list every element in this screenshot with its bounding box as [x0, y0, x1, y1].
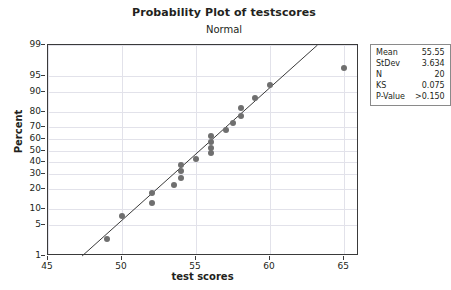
y-axis-tick-label: 60	[30, 133, 41, 143]
x-axis-tick-mark	[343, 256, 344, 260]
x-axis-tick-label: 50	[115, 261, 126, 271]
plot-area	[47, 44, 358, 255]
statistics-value: >0.150	[413, 91, 447, 102]
statistics-row: N20	[374, 69, 447, 80]
statistics-key: N	[374, 69, 413, 80]
data-point	[208, 133, 214, 139]
data-point	[119, 213, 125, 219]
statistics-legend: Mean55.55StDev3.634N20KS0.075P-Value>0.1…	[370, 44, 451, 106]
data-point	[208, 145, 214, 151]
statistics-row: StDev3.634	[374, 58, 447, 69]
y-axis-tick-mark	[41, 224, 45, 225]
statistics-value: 0.075	[413, 80, 447, 91]
data-point	[208, 150, 214, 156]
y-axis-tick-mark	[41, 91, 45, 92]
x-axis-tick-label: 55	[189, 261, 200, 271]
y-axis-tick-label: 5	[35, 219, 41, 229]
data-point	[238, 105, 244, 111]
chart-subtitle: Normal	[0, 24, 448, 35]
statistics-row: KS0.075	[374, 80, 447, 91]
statistics-value: 55.55	[413, 47, 447, 58]
x-axis-tick-mark	[47, 256, 48, 260]
data-point	[171, 182, 177, 188]
data-points	[48, 45, 357, 254]
data-point	[230, 120, 236, 126]
statistics-row: P-Value>0.150	[374, 91, 447, 102]
y-axis-tick-mark	[41, 150, 45, 151]
data-point	[149, 200, 155, 206]
y-axis-tick-mark	[41, 75, 45, 76]
x-axis-tick-mark	[269, 256, 270, 260]
y-axis-tick-label: 50	[30, 145, 41, 155]
data-point	[193, 156, 199, 162]
statistics-row: Mean55.55	[374, 47, 447, 58]
y-axis-tick-mark	[41, 44, 45, 45]
y-axis-tick-mark	[41, 188, 45, 189]
data-point	[208, 139, 214, 145]
y-axis-tick-label: 95	[30, 70, 41, 80]
x-axis-tick-mark	[121, 256, 122, 260]
data-point	[267, 82, 273, 88]
y-axis-tick-label: 10	[30, 203, 41, 213]
statistics-key: Mean	[374, 47, 413, 58]
data-point	[341, 65, 347, 71]
y-axis-tick-label: 80	[30, 106, 41, 116]
y-axis-tick-label: 20	[30, 183, 41, 193]
x-axis-title: test scores	[47, 271, 358, 282]
y-axis-tick-mark	[41, 138, 45, 139]
data-point	[178, 168, 184, 174]
x-axis-tick-label: 60	[263, 261, 274, 271]
x-axis-tick-label: 45	[41, 261, 52, 271]
y-axis-tick-label: 30	[30, 168, 41, 178]
data-point	[223, 127, 229, 133]
x-axis-tick-mark	[195, 256, 196, 260]
y-axis-title: Percent	[13, 92, 24, 172]
y-axis-tick-label: 90	[30, 86, 41, 96]
y-axis-tick-label: 99	[30, 39, 41, 49]
y-axis-tick-mark	[41, 208, 45, 209]
chart-title: Probability Plot of testscores	[0, 6, 448, 19]
y-axis-tick-label: 1	[35, 250, 41, 260]
y-axis-tick-mark	[41, 173, 45, 174]
data-point	[104, 236, 110, 242]
x-axis-tick-label: 65	[337, 261, 348, 271]
y-axis-tick-label: 40	[30, 156, 41, 166]
y-axis-tick-mark	[41, 126, 45, 127]
statistics-key: StDev	[374, 58, 413, 69]
data-point	[238, 113, 244, 119]
data-point	[178, 175, 184, 181]
y-axis-tick-mark	[41, 111, 45, 112]
data-point	[252, 95, 258, 101]
statistics-key: P-Value	[374, 91, 413, 102]
y-axis-tick-mark	[41, 255, 45, 256]
x-axis-ticks: 4550556065	[47, 256, 358, 272]
statistics-key: KS	[374, 80, 413, 91]
data-point	[149, 190, 155, 196]
statistics-table: Mean55.55StDev3.634N20KS0.075P-Value>0.1…	[374, 47, 447, 102]
y-axis-tick-label: 70	[30, 121, 41, 131]
data-point	[178, 162, 184, 168]
statistics-value: 20	[413, 69, 447, 80]
y-axis-tick-mark	[41, 161, 45, 162]
statistics-value: 3.634	[413, 58, 447, 69]
